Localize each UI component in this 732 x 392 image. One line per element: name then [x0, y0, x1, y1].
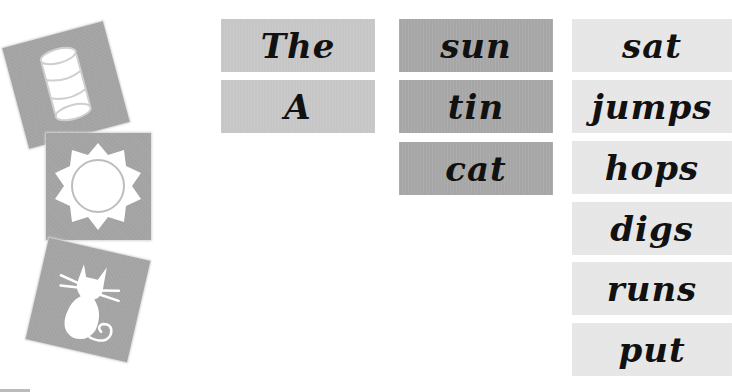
word-card-determiner[interactable]: A — [221, 80, 375, 133]
sun-picture-tile[interactable] — [46, 133, 151, 240]
word-card-noun[interactable]: tin — [399, 80, 553, 133]
word-card-verb[interactable]: runs — [572, 262, 732, 315]
word-card-verb[interactable]: hops — [572, 141, 732, 194]
word-card-verb[interactable]: digs — [572, 202, 732, 255]
word-card-verb[interactable]: jumps — [572, 80, 732, 133]
tin-can-icon — [2, 21, 129, 148]
word-card-noun[interactable]: cat — [399, 142, 553, 195]
word-card-verb[interactable]: put — [572, 323, 732, 376]
word-card-verb[interactable]: sat — [572, 19, 732, 72]
cat-icon — [26, 238, 151, 363]
cat-picture-tile[interactable] — [26, 238, 151, 363]
sun-icon — [46, 133, 151, 240]
tin-picture-tile[interactable] — [2, 21, 129, 148]
word-card-noun[interactable]: sun — [399, 19, 553, 72]
word-card-determiner[interactable]: The — [221, 19, 375, 72]
